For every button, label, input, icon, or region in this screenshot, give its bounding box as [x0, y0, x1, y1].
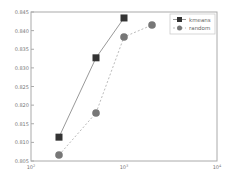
y-tick-label: 0.810: [15, 139, 29, 145]
chart: 0.8050.8100.8150.8200.8250.8300.8350.840…: [0, 0, 231, 176]
y-tick-label: 0.830: [15, 65, 29, 71]
x-tick-label: 102: [27, 164, 36, 170]
y-tick-label: 0.845: [15, 9, 29, 15]
data-point: [92, 109, 100, 117]
x-tick-label: 103: [120, 164, 129, 170]
data-point: [120, 33, 128, 41]
data-point: [55, 151, 63, 159]
x-axis-ticks: 102103104: [27, 164, 222, 170]
y-tick-label: 0.825: [15, 84, 29, 90]
legend-label: random: [189, 25, 210, 31]
data-point: [55, 134, 62, 141]
y-tick-label: 0.820: [15, 102, 29, 108]
data-point: [121, 14, 128, 21]
data-point: [148, 21, 156, 29]
data-point: [93, 54, 100, 61]
y-tick-label: 0.835: [15, 46, 29, 52]
y-tick-label: 0.840: [15, 28, 29, 34]
legend-label: kmeans: [189, 17, 211, 23]
legend: kmeansrandom: [170, 14, 215, 34]
x-tick-label: 104: [213, 164, 222, 170]
series-layer: [55, 14, 156, 158]
y-tick-label: 0.815: [15, 121, 29, 127]
